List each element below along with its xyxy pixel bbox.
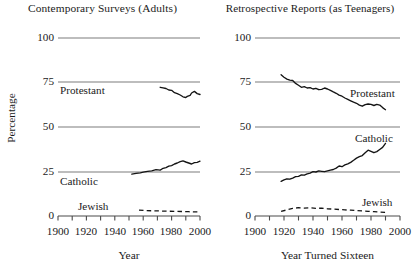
x-axis-title-contemporary: Year bbox=[58, 249, 200, 261]
series-label-catholic: Catholic bbox=[355, 132, 393, 144]
series-label-jewish: Jewish bbox=[362, 196, 392, 208]
series-line-protestant bbox=[160, 87, 200, 97]
series-line-catholic bbox=[281, 143, 385, 181]
panel-contemporary-surveys: Contemporary Surveys (Adults) Percentage… bbox=[0, 0, 205, 271]
figure-two-panel-religion-trends: Contemporary Surveys (Adults) Percentage… bbox=[0, 0, 415, 271]
panel-retrospective-reports: Retrospective Reports (as Teenagers) 100… bbox=[205, 0, 415, 271]
x-axis-title-retrospective: Year Turned Sixteen bbox=[255, 249, 400, 261]
x-axis-ticks bbox=[58, 216, 200, 221]
series-label-jewish: Jewish bbox=[78, 200, 108, 212]
series-line-jewish bbox=[139, 210, 200, 212]
series-line-jewish bbox=[281, 208, 385, 213]
x-axis-ticks bbox=[255, 216, 400, 221]
series-label-catholic: Catholic bbox=[60, 175, 98, 187]
x-tick-label-2000: 2000 bbox=[380, 226, 415, 237]
series-label-protestant: Protestant bbox=[60, 84, 105, 96]
series-label-protestant: Protestant bbox=[350, 87, 395, 99]
